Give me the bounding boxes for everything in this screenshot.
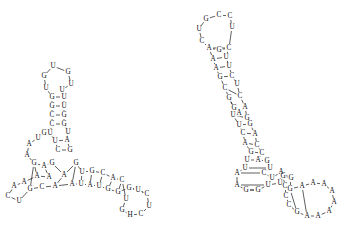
base-pair-line — [73, 167, 76, 180]
rna-structure-diagram: GUGUUUGUGUCGCGUUUACGUGAAGAGAAAACUGCAAGUG… — [0, 0, 348, 231]
nucleotide-letter-C: C — [6, 192, 11, 200]
nucleotide-letter-A: A — [310, 179, 316, 187]
nucleotide-letter-G: G — [73, 159, 78, 167]
nucleotide-letter-C: C — [145, 190, 150, 198]
nucleotide-letter-G: G — [105, 185, 110, 193]
nucleotide-letter-G: G — [89, 167, 94, 175]
backbone-line — [272, 184, 276, 185]
nucleotide-letter-A: A — [321, 180, 327, 188]
nucleotide-letter-U: U — [43, 84, 49, 92]
nucleotide-letter-A: A — [64, 136, 70, 144]
backbone-line — [38, 164, 40, 165]
nucleotide-letter-C: C — [255, 141, 260, 149]
nucleotide-letter-G: G — [31, 159, 36, 167]
nucleotide-letter-U: U — [236, 121, 242, 129]
backbone-line — [28, 178, 34, 181]
backbone-line — [34, 188, 38, 189]
backbone-line — [262, 187, 265, 188]
nucleotide-letter-A: A — [304, 212, 310, 220]
nucleotide-letter-U: U — [196, 25, 202, 33]
nucleotide-letter-G: G — [294, 208, 299, 216]
nucleotide-letter-A: A — [255, 156, 261, 164]
nucleotide-letter-G: G — [243, 186, 248, 194]
nucleotide-letter-A: A — [299, 182, 305, 190]
nucleotide-letter-A: A — [236, 109, 242, 117]
base-pair-line — [55, 166, 61, 172]
nucleotide-letter-G: G — [226, 94, 231, 102]
nucleotide-letter-G: G — [217, 73, 222, 81]
nucleotide-letter-C: C — [120, 176, 125, 184]
nucleotide-letter-C: C — [50, 120, 55, 128]
nucleotide-letter-A: A — [329, 187, 335, 195]
rna-figure-canvas: GUGUUUGUGUCGCGUUUACGUGAAGAGAAAACUGCAAGUG… — [0, 0, 348, 231]
backbone-line — [275, 174, 277, 176]
nucleotide-letter-A: A — [87, 181, 93, 189]
nucleotide-letter-U: U — [242, 164, 248, 172]
nucleotide-letter-A: A — [110, 174, 116, 182]
backbone-line — [122, 189, 125, 190]
nucleotide-letter-H: H — [127, 211, 132, 219]
backbone-line — [65, 86, 67, 88]
nucleotide-letter-G: G — [27, 185, 32, 193]
nucleotide-letter-C: C — [238, 92, 243, 100]
nucleotide-letter-G: G — [49, 102, 54, 110]
right-structure-group: GCCUUCAGCAUAUGCUCGCGAAUGUGCAACGCUAGUUACA… — [196, 11, 338, 220]
nucleotide-letter-C: C — [223, 84, 228, 92]
backbone-line — [210, 16, 215, 18]
backbone-line — [294, 187, 298, 188]
nucleotide-letter-C: C — [241, 129, 246, 137]
base-pair-line — [217, 58, 222, 59]
nucleotide-letter-U: U — [96, 182, 102, 190]
nucleotide-letter-A: A — [252, 130, 258, 138]
nucleotide-letter-C: C — [200, 37, 205, 45]
nucleotide-letter-U: U — [265, 181, 271, 189]
nucleotide-letter-U: U — [52, 137, 58, 145]
nucleotide-letter-C: C — [284, 192, 289, 200]
nucleotide-letter-C: C — [262, 169, 267, 177]
nucleotide-letter-U: U — [135, 186, 141, 194]
nucleotide-letter-A: A — [41, 162, 47, 170]
base-pair-line — [220, 67, 225, 68]
backbone-line — [142, 192, 144, 193]
backbone-line — [322, 213, 326, 215]
nucleotide-letter-G: G — [216, 46, 221, 54]
nucleotide-letter-U: U — [267, 164, 273, 172]
left-structure-group: GUGUUUGUGUCGCGUUUACGUGAAGAGAAAACUGCAAGUG… — [5, 62, 153, 219]
nucleotide-letter-G: G — [65, 68, 70, 76]
nucleotide-letter-C: C — [227, 44, 232, 52]
nucleotide-letter-A: A — [234, 169, 240, 177]
backbone-line — [57, 67, 65, 70]
backbone-line — [301, 213, 304, 214]
nucleotide-letter-G: G — [203, 15, 208, 23]
nucleotide-letter-G: G — [61, 120, 66, 128]
nucleotide-letter-G: G — [115, 188, 120, 196]
nucleotide-letter-C: C — [139, 210, 144, 218]
backbone-line — [22, 192, 28, 198]
nucleotide-letter-U: U — [229, 23, 235, 31]
nucleotide-letter-C: C — [228, 12, 233, 20]
nucleotide-letter-A: A — [69, 180, 75, 188]
nucleotide-letter-C: C — [40, 183, 45, 191]
nucleotide-letter-A: A — [331, 198, 337, 206]
nucleotide-letter-A: A — [11, 182, 17, 190]
backbone-line — [241, 187, 243, 188]
backbone-line — [32, 140, 34, 142]
nucleotide-letter-A: A — [234, 181, 240, 189]
nucleotide-letter-U: U — [234, 80, 240, 88]
nucleotide-letter-G: G — [41, 129, 46, 137]
nucleotide-letter-G: G — [49, 93, 54, 101]
backbone-line — [58, 178, 62, 183]
nucleotide-letter-G: G — [247, 120, 252, 128]
backbone-line — [306, 184, 309, 185]
nucleotide-letter-U: U — [146, 202, 152, 210]
nucleotide-letter-U: U — [16, 197, 22, 205]
base-pair-line — [249, 144, 253, 145]
backbone-line — [18, 183, 21, 184]
nucleotide-letter-A: A — [213, 64, 219, 72]
nucleotide-letter-U: U — [244, 156, 250, 164]
nucleotide-letter-G: G — [288, 174, 293, 182]
nucleotide-letter-A: A — [52, 182, 58, 190]
nucleotide-letter-A: A — [315, 212, 321, 220]
nucleotide-letter-A: A — [242, 103, 248, 111]
nucleotide-letter-U: U — [61, 93, 67, 101]
